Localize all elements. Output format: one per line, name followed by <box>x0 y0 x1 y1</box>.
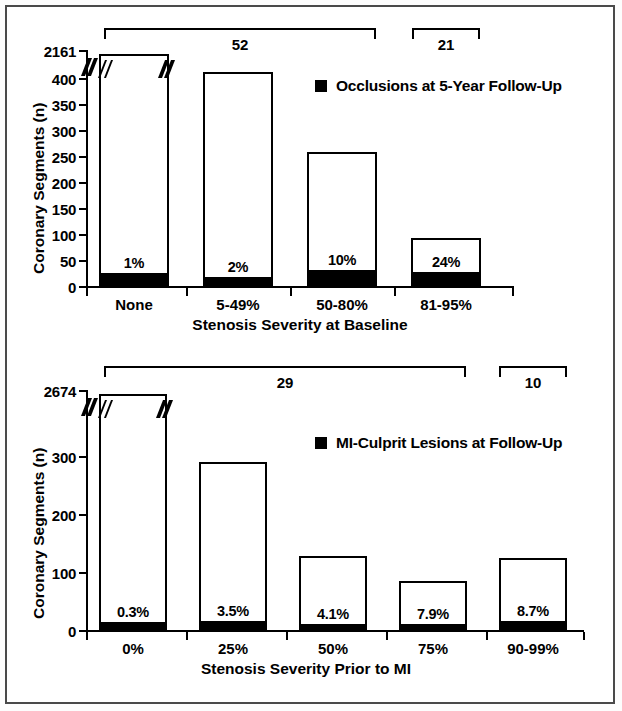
bar-50pct[interactable]: 4.1% <box>299 556 367 632</box>
y-tick-top <box>79 182 86 184</box>
bar-5-49[interactable]: 2% <box>203 72 273 288</box>
x-tick-label-bottom: 25% <box>193 640 273 657</box>
bar-75pct[interactable]: 7.9% <box>399 581 467 632</box>
bar-percent-label: 0.3% <box>101 604 165 620</box>
x-tick-label-bottom: 0% <box>93 640 173 657</box>
bar-percent-label: 7.9% <box>401 606 465 622</box>
y-tick-top <box>79 156 86 158</box>
y-tick-label-top: 300 <box>0 123 76 140</box>
bar-culprit-segment <box>101 622 165 630</box>
y-tick-bottom <box>79 514 86 516</box>
legend-label: MI-Culprit Lesions at Follow-Up <box>336 434 562 452</box>
y-tick-top <box>79 286 86 288</box>
y-tick-label-break-bottom: 2674 <box>0 383 76 400</box>
bar-percent-label: 10% <box>309 252 375 268</box>
bracket-label-10: 10 <box>525 374 542 391</box>
x-tick-top <box>290 288 292 296</box>
bar-25pct[interactable]: 3.5% <box>199 462 267 632</box>
y-tick-label-top: 250 <box>0 149 76 166</box>
bar-50-80[interactable]: 10% <box>307 152 377 288</box>
y-tick-label-top: 0 <box>0 279 76 296</box>
bar-percent-label: 3.5% <box>201 603 265 619</box>
y-tick-top <box>79 78 86 80</box>
y-tick-top <box>79 260 86 262</box>
bar-percent-label: 24% <box>413 254 479 270</box>
x-tick-label-top: 81-95% <box>402 296 490 313</box>
axis-break-slash-icon <box>79 396 99 422</box>
y-tick-bottom <box>79 456 86 458</box>
y-tick-label-top: 150 <box>0 201 76 218</box>
bar-percent-label: 2% <box>205 259 271 275</box>
x-tick-top <box>86 288 88 296</box>
bar-occlusion-segment <box>309 270 375 286</box>
y-tick-bottom <box>79 572 86 574</box>
x-tick-label-bottom: 90-99% <box>489 640 577 657</box>
bracket-label-29: 29 <box>277 374 294 391</box>
bar-percent-label: 4.1% <box>301 606 365 622</box>
legend-swatch-icon <box>315 80 327 92</box>
y-tick-label-top: 50 <box>0 253 76 270</box>
y-tick-top <box>79 208 86 210</box>
legend-top: Occlusions at 5-Year Follow-Up <box>315 77 562 95</box>
plot-area-bottom: Coronary Segments (n) 2674 300 200 100 0 <box>0 346 610 696</box>
y-axis-title-bottom: Coronary Segments (n) <box>30 448 48 619</box>
y-tick-top <box>79 104 86 106</box>
y-tick-top <box>79 130 86 132</box>
figure-container: Coronary Segments (n) 2161 400 350 300 <box>0 0 622 711</box>
bar-percent-label: 8.7% <box>501 603 565 619</box>
y-tick-label-bottom: 300 <box>0 449 76 466</box>
x-tick-label-top: 50-80% <box>298 296 386 313</box>
x-tick-label-bottom: 75% <box>393 640 473 657</box>
bar-culprit-segment <box>301 624 365 630</box>
y-axis-line-bottom <box>86 390 88 633</box>
x-tick-top <box>512 288 514 296</box>
x-axis-title-bottom: Stenosis Severity Prior to MI <box>86 660 526 678</box>
x-tick-top <box>186 288 188 296</box>
legend-swatch-icon <box>315 437 327 449</box>
bar-90-99pct[interactable]: 8.7% <box>499 558 567 632</box>
y-tick-break-bottom <box>79 390 86 392</box>
y-tick-top <box>79 234 86 236</box>
legend-label: Occlusions at 5-Year Follow-Up <box>336 77 562 95</box>
x-tick-top <box>394 288 396 296</box>
y-tick-label-bottom: 100 <box>0 565 76 582</box>
y-tick-label-bottom: 200 <box>0 507 76 524</box>
x-tick-bottom <box>386 632 388 640</box>
x-tick-label-top: 5-49% <box>196 296 280 313</box>
y-tick-label-top: 350 <box>0 97 76 114</box>
y-axis-line-top <box>86 50 88 286</box>
chart-panel-top: Coronary Segments (n) 2161 400 350 300 <box>0 6 610 346</box>
x-axis-title-top: Stenosis Severity at Baseline <box>86 316 514 334</box>
bar-81-95[interactable]: 24% <box>411 238 481 288</box>
legend-bottom: MI-Culprit Lesions at Follow-Up <box>315 434 562 452</box>
y-tick-label-top: 400 <box>0 71 76 88</box>
bar-occlusion-segment <box>101 273 167 286</box>
x-tick-bottom <box>583 632 585 640</box>
y-tick-bottom <box>79 630 86 632</box>
bar-0pct[interactable]: 0.3% <box>99 394 167 632</box>
y-tick-label-break-top: 2161 <box>0 43 76 60</box>
x-tick-bottom <box>286 632 288 640</box>
x-tick-label-bottom: 50% <box>293 640 373 657</box>
bar-culprit-segment <box>401 624 465 630</box>
y-tick-label-top: 200 <box>0 175 76 192</box>
bar-none[interactable]: 1% <box>99 54 169 288</box>
bar-occlusion-segment <box>413 272 479 286</box>
x-tick-label-top: None <box>94 296 174 313</box>
plot-area-top: Coronary Segments (n) 2161 400 350 300 <box>0 6 610 346</box>
bar-culprit-segment <box>201 621 265 630</box>
y-tick-break-top <box>79 50 86 52</box>
bar-percent-label: 1% <box>101 255 167 271</box>
chart-panel-bottom: Coronary Segments (n) 2674 300 200 100 0 <box>0 346 610 696</box>
y-tick-label-bottom: 0 <box>0 623 76 640</box>
x-tick-bottom <box>86 632 88 640</box>
x-tick-bottom <box>486 632 488 640</box>
bar-occlusion-segment <box>205 277 271 286</box>
y-tick-label-top: 100 <box>0 227 76 244</box>
x-tick-bottom <box>186 632 188 640</box>
bracket-label-52: 52 <box>232 36 249 53</box>
bracket-label-21: 21 <box>438 36 455 53</box>
bar-culprit-segment <box>501 621 565 630</box>
